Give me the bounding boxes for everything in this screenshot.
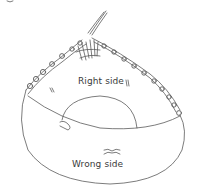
knitting-illustration: Right side Wrong side xyxy=(0,0,199,195)
wrong-side-label: Wrong side xyxy=(72,159,123,169)
right-side-label: Right side xyxy=(78,76,124,86)
cropped-caption-fragment xyxy=(7,1,13,2)
